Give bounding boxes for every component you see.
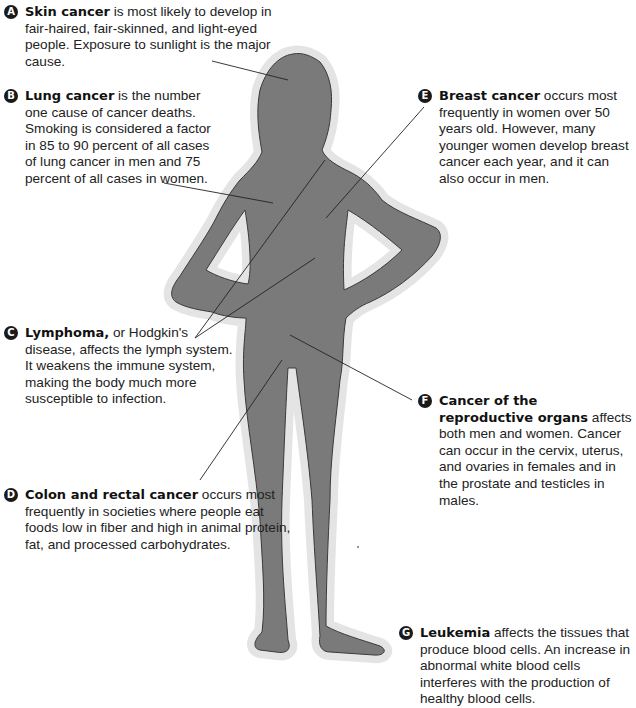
badge-f: F bbox=[418, 394, 432, 408]
badge-b: B bbox=[4, 89, 18, 103]
badge-g: G bbox=[399, 626, 413, 640]
badge-c: C bbox=[4, 326, 18, 340]
callout-lymphoma: C Lymphoma, or Hodgkin's disease, affect… bbox=[4, 325, 234, 408]
callout-title: Lymphoma, bbox=[25, 325, 109, 340]
callout-title: Leukemia bbox=[420, 625, 490, 640]
callout-leukemia: G Leukemia affects the tissues that prod… bbox=[399, 625, 636, 708]
callout-title: Cancer of the reproductive organs bbox=[439, 393, 588, 425]
badge-a: A bbox=[4, 5, 18, 19]
callout-breast-cancer: E Breast cancer occurs most frequently i… bbox=[418, 88, 633, 188]
callout-title: Breast cancer bbox=[439, 88, 540, 103]
badge-d: D bbox=[4, 488, 18, 502]
callout-title: Skin cancer bbox=[25, 4, 110, 19]
callout-skin-cancer: A Skin cancer is most likely to develop … bbox=[4, 4, 294, 70]
callout-lung-cancer: B Lung cancer is the number one cause of… bbox=[4, 88, 219, 188]
callout-colon-rectal-cancer: D Colon and rectal cancer occurs most fr… bbox=[4, 487, 294, 553]
callout-reproductive-cancer: F Cancer of the reproductive organs affe… bbox=[418, 393, 636, 509]
badge-e: E bbox=[418, 89, 432, 103]
stray-dot bbox=[357, 546, 359, 548]
callout-title: Lung cancer bbox=[25, 88, 114, 103]
callout-title: Colon and rectal cancer bbox=[25, 487, 198, 502]
